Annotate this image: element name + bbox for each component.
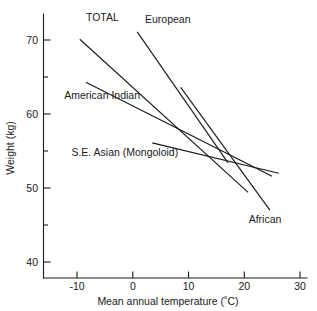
trend-line-total (80, 39, 248, 192)
weight-vs-temperature-line-chart: 70 60 50 40 -10 0 10 20 30 Mean annual t… (0, 0, 317, 311)
series-label-african: African (249, 213, 282, 225)
y-tick-label-50: 50 (26, 182, 38, 194)
y-axis-minor-ticks (44, 77, 49, 225)
y-tick-label-60: 60 (26, 108, 38, 120)
x-tick-label-10: 10 (183, 280, 195, 292)
x-tick-label-20: 20 (238, 280, 250, 292)
trend-line-african (181, 87, 270, 210)
series-label-european: European (145, 13, 191, 25)
y-tick-label-40: 40 (26, 256, 38, 268)
series-label-american-indian: American Indian (64, 89, 140, 101)
trend-line-european (137, 32, 228, 163)
x-axis-major-ticks (77, 272, 300, 279)
x-tick-label-neg10: -10 (69, 280, 84, 292)
series-labels-group: TOTAL European American Indian S.E. Asia… (64, 11, 281, 225)
y-axis-title: Weight (kg) (4, 121, 16, 175)
series-label-total: TOTAL (86, 11, 119, 23)
x-axis-title: Mean annual temperature (˚C) (97, 295, 238, 307)
x-tick-label-30: 30 (294, 280, 306, 292)
series-label-se-asian-mongoloid: S.E. Asian (Mongoloid) (71, 146, 178, 158)
chart-figure: 70 60 50 40 -10 0 10 20 30 Mean annual t… (0, 0, 317, 311)
y-tick-label-70: 70 (26, 34, 38, 46)
x-tick-label-0: 0 (130, 280, 136, 292)
trend-lines-group (80, 32, 279, 210)
